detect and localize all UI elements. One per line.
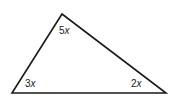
angle-label-top: 5x — [59, 25, 71, 36]
triangle-diagram: 5x 3x 2x — [0, 0, 179, 105]
angle-label-bottom-right: 2x — [131, 78, 143, 89]
angle-label-bottom-left: 3x — [25, 78, 37, 89]
